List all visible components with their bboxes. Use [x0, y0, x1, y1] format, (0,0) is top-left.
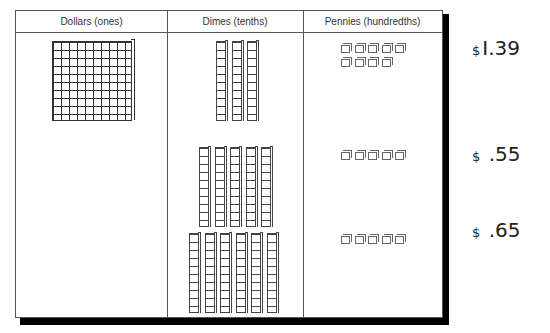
- penny-cube-icon: [395, 45, 404, 53]
- amount-value: I.39: [482, 36, 520, 60]
- header-dimes: Dimes (tenths): [167, 11, 303, 33]
- dime-rod-icon: [232, 41, 242, 121]
- dollar-sign: $: [472, 43, 480, 58]
- dollar-sign: $: [472, 225, 480, 240]
- penny-cubes-row-2: [341, 152, 409, 160]
- penny-cube-icon: [395, 236, 404, 244]
- penny-cube-icon: [368, 59, 377, 67]
- dime-rod-icon: [236, 233, 246, 313]
- dime-rods-row-1: [216, 41, 263, 121]
- penny-cube-icon: [382, 45, 391, 53]
- penny-cube-icon: [368, 236, 377, 244]
- dime-rod-icon: [267, 233, 277, 313]
- penny-cubes-row-1b: [341, 59, 395, 67]
- amount-value: .65: [482, 218, 520, 242]
- divider-2: [303, 11, 304, 317]
- dime-rod-icon: [261, 147, 271, 227]
- header-dollars: Dollars (ones): [16, 11, 167, 33]
- hundred-flat: [52, 41, 132, 121]
- amount-row-1: $I.39: [472, 36, 520, 60]
- divider-1: [167, 11, 168, 317]
- amount-row-3: $ .65: [472, 218, 520, 242]
- dime-rod-icon: [247, 41, 257, 121]
- dime-rod-icon: [215, 147, 225, 227]
- dime-rod-icon: [189, 233, 199, 313]
- penny-cube-icon: [368, 152, 377, 160]
- penny-cubes-row-1a: [341, 45, 409, 53]
- place-value-chart: Dollars (ones) Dimes (tenths) Pennies (h…: [15, 10, 443, 318]
- penny-cube-icon: [355, 59, 364, 67]
- penny-cube-icon: [355, 236, 364, 244]
- dime-rod-icon: [220, 233, 230, 313]
- penny-cube-icon: [341, 45, 350, 53]
- dime-rod-icon: [199, 147, 209, 227]
- amount-value: .55: [482, 142, 520, 166]
- dime-rod-icon: [216, 41, 226, 121]
- penny-cubes-row-3: [341, 236, 409, 244]
- penny-cube-icon: [382, 236, 391, 244]
- dime-rod-icon: [251, 233, 261, 313]
- dime-rods-row-2: [199, 147, 277, 227]
- penny-cube-icon: [341, 152, 350, 160]
- penny-cube-icon: [382, 152, 391, 160]
- penny-cube-icon: [368, 45, 377, 53]
- penny-cube-icon: [341, 236, 350, 244]
- header-pennies: Pennies (hundredths): [303, 11, 442, 33]
- dime-rod-icon: [246, 147, 256, 227]
- penny-cube-icon: [395, 152, 404, 160]
- penny-cube-icon: [382, 59, 391, 67]
- dime-rods-row-3: [189, 233, 282, 313]
- amount-row-2: $ .55: [472, 142, 520, 166]
- dime-rod-icon: [230, 147, 240, 227]
- penny-cube-icon: [341, 59, 350, 67]
- dime-rod-icon: [205, 233, 215, 313]
- penny-cube-icon: [355, 152, 364, 160]
- penny-cube-icon: [355, 45, 364, 53]
- dollar-sign: $: [472, 149, 480, 164]
